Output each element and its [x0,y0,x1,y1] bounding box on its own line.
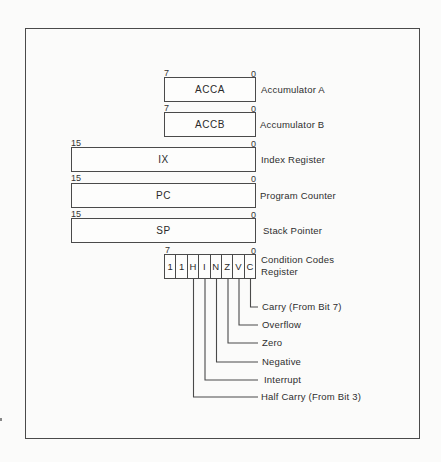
flag-label-carry: Carry (From Bit 7) [262,301,342,312]
flag-label-negative: Negative [262,356,301,367]
flag-label-half-carry: Half Carry (From Bit 3) [261,391,361,402]
flag-label-interrupt: Interrupt [264,374,301,385]
flag-label-zero: Zero [262,337,282,348]
flag-connector-lines [0,0,441,462]
flag-label-overflow: Overflow [262,319,301,330]
